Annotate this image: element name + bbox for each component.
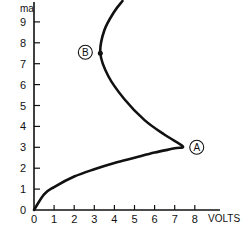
y-tick-label: 9 — [20, 16, 26, 28]
y-tick-label: 7 — [20, 58, 26, 70]
x-tick-label: 3 — [91, 213, 97, 225]
axes — [34, 2, 220, 210]
data-curve — [34, 1, 183, 210]
ticks: 0123456780123456789 — [20, 16, 198, 225]
iv-curve-chart: 0123456780123456789 AB ma VOLTS — [0, 0, 248, 235]
point-b-marker — [98, 51, 103, 56]
x-tick-label: 5 — [131, 213, 137, 225]
x-tick-label: 1 — [51, 213, 57, 225]
x-tick-label: 7 — [172, 213, 178, 225]
point-b-label: B — [82, 47, 89, 58]
y-tick-label: 3 — [20, 141, 26, 153]
x-tick-label: 2 — [71, 213, 77, 225]
y-tick-label: 8 — [20, 37, 26, 49]
y-tick-label: 5 — [20, 100, 26, 112]
x-tick-label: 8 — [192, 213, 198, 225]
y-tick-label: 2 — [20, 162, 26, 174]
x-tick-label: 0 — [31, 213, 37, 225]
y-tick-label: 0 — [20, 204, 26, 216]
x-tick-label: 6 — [152, 213, 158, 225]
y-tick-label: 4 — [20, 120, 26, 132]
x-tick-label: 4 — [111, 213, 117, 225]
y-axis-title: ma — [20, 3, 34, 14]
annotations: AB — [78, 45, 203, 154]
x-axis-title: VOLTS — [208, 213, 240, 224]
point-a-label: A — [193, 142, 200, 153]
y-tick-label: 6 — [20, 79, 26, 91]
y-tick-label: 1 — [20, 183, 26, 195]
chart-container: 0123456780123456789 AB ma VOLTS — [0, 0, 248, 235]
